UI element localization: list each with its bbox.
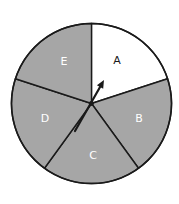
- sector-label-a: A: [113, 54, 121, 67]
- sector-label-e: E: [61, 55, 68, 68]
- sector-label-c: C: [89, 149, 97, 162]
- arrow-pivot: [89, 101, 94, 106]
- sector-label-d: D: [41, 112, 49, 125]
- sector-label-b: B: [135, 112, 143, 125]
- spinner-diagram: A B C D E: [0, 0, 179, 204]
